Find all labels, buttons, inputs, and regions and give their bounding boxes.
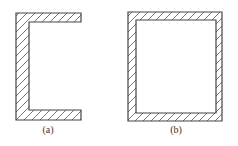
channel-section xyxy=(16,13,81,120)
panel-a-label: (a) xyxy=(42,124,53,136)
box-section xyxy=(128,12,222,121)
panel-b-label: (b) xyxy=(170,124,182,136)
figure: (a) (b) xyxy=(0,0,238,146)
